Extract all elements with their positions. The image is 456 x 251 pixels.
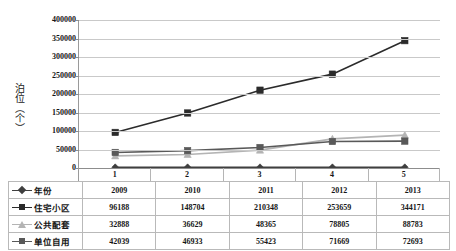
- legend-label: 公共配套: [34, 218, 70, 230]
- table-row: 年份20092010201120122013: [9, 182, 450, 199]
- legend-triangle-icon: [12, 220, 32, 229]
- y-tick-mark: [76, 94, 79, 95]
- table-cell: 148704: [156, 199, 229, 216]
- gridline: [79, 150, 440, 151]
- table-cell: 2012: [303, 182, 376, 199]
- legend-diamond-icon: [12, 186, 32, 195]
- table-cell: 71669: [303, 233, 376, 250]
- table-row: 住宅小区96188148704210348253659344171: [9, 199, 450, 216]
- legend-key-cell[interactable]: 年份: [9, 182, 83, 199]
- legend-square-icon: [12, 237, 32, 246]
- y-tick-label: 250000: [30, 72, 76, 80]
- legend-key-cell[interactable]: 单位自用: [9, 233, 83, 250]
- table-cell: 344171: [376, 199, 449, 216]
- y-tick-label: 150000: [30, 109, 76, 117]
- x-category-label: 2: [150, 168, 222, 181]
- table-cell: 2010: [156, 182, 229, 199]
- gridline: [79, 20, 440, 21]
- x-axis-category-band: 12345: [78, 168, 440, 181]
- table-cell: 2009: [83, 182, 156, 199]
- y-tick-mark: [76, 150, 79, 151]
- table-cell: 48365: [229, 216, 302, 233]
- table-row: 公共配套3288836629483657880588783: [9, 216, 450, 233]
- chart-figure: 泊位（个） 4000003500003000002500002000001500…: [0, 0, 456, 251]
- table-cell: 88783: [376, 216, 449, 233]
- table-cell: 2013: [376, 182, 449, 199]
- table-cell: 96188: [83, 199, 156, 216]
- y-tick-label: 200000: [30, 90, 76, 98]
- legend-label: 住宅小区: [34, 201, 70, 213]
- table-cell: 210348: [229, 199, 302, 216]
- x-category-label: 5: [368, 168, 440, 181]
- table-cell: 78805: [303, 216, 376, 233]
- gridline: [79, 131, 440, 132]
- table-cell: 2011: [229, 182, 302, 199]
- y-tick-mark: [76, 20, 79, 21]
- data-point-marker: [329, 138, 335, 144]
- x-category-label: 3: [223, 168, 295, 181]
- data-point-marker: [257, 87, 263, 93]
- gridline: [79, 94, 440, 95]
- table-row: 单位自用4203946933554237166972693: [9, 233, 450, 250]
- y-tick-label: 300000: [30, 53, 76, 61]
- y-tick-label: 50000: [30, 146, 76, 154]
- y-axis-tick-labels: 4000003500003000002500002000001500001000…: [29, 20, 76, 168]
- legend-label: 年份: [34, 184, 52, 196]
- x-category-label: 1: [78, 168, 150, 181]
- y-tick-label: 100000: [30, 127, 76, 135]
- table-cell: 55423: [229, 233, 302, 250]
- chart-data-table-body: 年份20092010201120122013住宅小区96188148704210…: [9, 182, 450, 250]
- gridline: [79, 76, 440, 77]
- y-tick-label: 0: [30, 164, 76, 172]
- table-cell: 32888: [83, 216, 156, 233]
- series-1: [112, 37, 408, 135]
- y-axis-title: 泊位（个）: [10, 58, 28, 158]
- data-point-marker: [402, 138, 408, 144]
- series-line: [115, 41, 405, 133]
- gridline: [79, 39, 440, 40]
- legend-square-icon: [12, 203, 32, 212]
- plot-area: [78, 20, 440, 168]
- y-tick-label: 350000: [30, 35, 76, 43]
- y-tick-label: 400000: [30, 16, 76, 24]
- table-cell: 42039: [83, 233, 156, 250]
- y-tick-mark: [76, 131, 79, 132]
- x-category-label: 4: [295, 168, 367, 181]
- table-cell: 253659: [303, 199, 376, 216]
- chart-data-table: 年份20092010201120122013住宅小区96188148704210…: [8, 181, 450, 250]
- legend-label: 单位自用: [34, 235, 70, 247]
- y-tick-mark: [76, 76, 79, 77]
- y-tick-mark: [76, 113, 79, 114]
- gridline: [79, 113, 440, 114]
- legend-key-cell[interactable]: 公共配套: [9, 216, 83, 233]
- y-tick-mark: [76, 39, 79, 40]
- table-cell: 72693: [376, 233, 449, 250]
- table-cell: 36629: [156, 216, 229, 233]
- y-tick-mark: [76, 57, 79, 58]
- gridline: [79, 57, 440, 58]
- table-cell: 46933: [156, 233, 229, 250]
- legend-key-cell[interactable]: 住宅小区: [9, 199, 83, 216]
